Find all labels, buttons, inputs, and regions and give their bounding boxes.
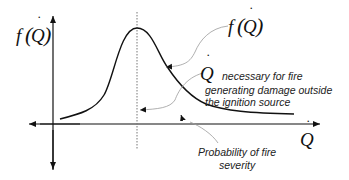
leader-probability xyxy=(190,122,218,143)
svg-text:): ) xyxy=(42,22,51,47)
diagram-canvas: f ( Q ˙ ) f ( Q ˙ ) Q ˙ necessary for fi… xyxy=(0,0,349,180)
svg-text:˙: ˙ xyxy=(248,5,253,20)
x-axis-label: Q ˙ xyxy=(300,118,314,150)
necessary-label: necessary for fire xyxy=(222,70,303,82)
generating-label-line2: the ignition source xyxy=(205,96,290,108)
q-dot-label: Q ˙ xyxy=(200,52,214,84)
svg-text:): ) xyxy=(254,13,263,38)
svg-text:˙: ˙ xyxy=(305,118,310,133)
svg-text:˙: ˙ xyxy=(205,52,210,67)
fire-severity-diagram: f ( Q ˙ ) f ( Q ˙ ) Q ˙ necessary for fi… xyxy=(0,0,349,180)
generating-label-line1: generating damage outside xyxy=(205,84,332,96)
leader-curve-label xyxy=(166,26,228,67)
svg-text:˙: ˙ xyxy=(36,14,41,29)
svg-text:f: f xyxy=(16,25,24,46)
svg-text:f: f xyxy=(228,16,236,37)
leader-q-dot xyxy=(140,73,203,110)
y-axis-label: f ( Q ˙ ) xyxy=(16,14,51,47)
curve-label: f ( Q ˙ ) xyxy=(228,5,263,38)
probability-label-line1: Probability of fire xyxy=(198,146,276,158)
probability-arrow xyxy=(181,115,182,118)
probability-label-line2: severity xyxy=(219,159,256,171)
